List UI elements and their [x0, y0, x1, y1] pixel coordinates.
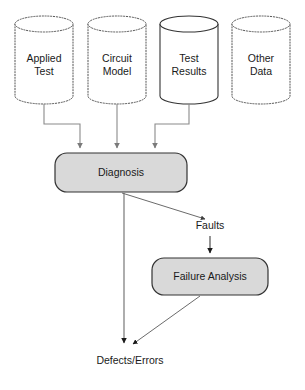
edge-test-results-to-diagnosis — [155, 104, 189, 148]
datastore-test-results — [160, 16, 218, 104]
datastore-applied-test — [15, 16, 73, 104]
edge-failure-analysis-to-defects-errors — [133, 296, 200, 344]
edge-diagnosis-to-faults — [122, 193, 205, 219]
datastore-other-data — [232, 16, 290, 104]
process-diagnosis[interactable] — [55, 153, 187, 192]
edge-label-faults: Faults — [185, 219, 235, 232]
edge-label-defects-errors: Defects/Errors — [80, 354, 180, 367]
diagram-graphics — [0, 0, 305, 390]
diagram-canvas: Applied Test Circuit Model Test Results … — [0, 0, 305, 390]
process-failure-analysis[interactable] — [152, 258, 268, 295]
edge-applied-test-to-diagnosis — [44, 104, 80, 148]
datastore-circuit-model — [88, 16, 146, 104]
